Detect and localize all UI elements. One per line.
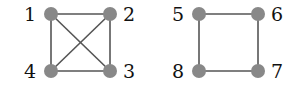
node-label-7: 7: [271, 60, 283, 82]
graph-k4: 1 2 3 4: [24, 3, 135, 82]
node-2: [103, 7, 117, 21]
node-label-6: 6: [271, 3, 283, 25]
node-label-3: 3: [123, 60, 135, 82]
node-1: [44, 7, 58, 21]
node-6: [251, 7, 265, 21]
graph-c4: 5 6 7 8: [172, 3, 283, 82]
node-label-2: 2: [123, 3, 135, 25]
node-7: [251, 64, 265, 78]
node-label-4: 4: [24, 60, 36, 82]
node-4: [44, 64, 58, 78]
node-label-1: 1: [24, 3, 36, 25]
node-label-5: 5: [172, 3, 184, 25]
node-5: [192, 7, 206, 21]
node-3: [103, 64, 117, 78]
graph-diagram: 1 2 3 4 5 6 7 8: [0, 0, 296, 90]
node-label-8: 8: [172, 60, 184, 82]
node-8: [192, 64, 206, 78]
